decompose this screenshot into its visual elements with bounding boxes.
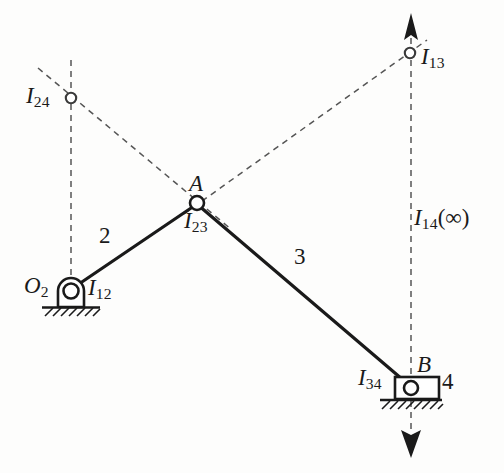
joint-A-pin xyxy=(190,196,204,210)
label-link-4: 4 xyxy=(442,370,454,393)
instant-center-I24-marker xyxy=(66,93,76,103)
label-I14-subscript: 14 xyxy=(422,215,438,232)
label-link-3: 3 xyxy=(294,245,306,268)
label-link-2: 2 xyxy=(99,224,111,247)
label-O2: O2 xyxy=(24,274,49,300)
joint-O2-pin xyxy=(64,284,79,299)
label-I12-letter: I xyxy=(88,275,96,300)
label-O2-subscript: 2 xyxy=(41,283,49,300)
label-B-letter: B xyxy=(417,352,431,377)
label-I13: I13 xyxy=(421,45,445,71)
label-I34-letter: I xyxy=(358,365,366,390)
links-group xyxy=(73,204,409,385)
label-I24-subscript: 24 xyxy=(34,93,50,110)
instant-center-markers-group xyxy=(66,48,415,103)
label-I34: I34 xyxy=(358,366,382,392)
label-I24: I24 xyxy=(26,84,50,110)
label-I23-subscript: 23 xyxy=(192,218,208,235)
label-I14-letter: I xyxy=(414,205,422,230)
link-3-bar xyxy=(198,205,409,385)
arrow-up-I13-icon xyxy=(404,13,418,40)
instant-center-I13-marker xyxy=(405,48,415,58)
ground-hatching-O2 xyxy=(45,308,100,316)
label-I13-letter: I xyxy=(421,44,429,69)
figure-canvas: I24 I13 I12 I23 I34 I14(∞) O2 A B 2 3 4 xyxy=(0,0,504,473)
label-I14-infinity-paren: (∞) xyxy=(438,205,470,230)
slider-block-4-group xyxy=(380,377,443,409)
joint-B-pin xyxy=(404,381,418,395)
arrow-down-B-icon xyxy=(401,430,421,458)
label-I24-letter: I xyxy=(26,83,34,108)
label-O2-letter: O xyxy=(24,273,41,298)
label-I12: I12 xyxy=(88,276,112,302)
diagonal-A-to-I13-line xyxy=(184,40,427,214)
label-B: B xyxy=(417,353,431,376)
label-I23-letter: I xyxy=(184,208,192,233)
label-A: A xyxy=(189,172,203,195)
label-I34-subscript: 34 xyxy=(366,375,382,392)
ground-hatching-slider xyxy=(382,401,443,409)
label-I12-subscript: 12 xyxy=(96,285,112,302)
label-I14-infinity: I14(∞) xyxy=(414,206,469,232)
label-A-letter: A xyxy=(189,171,203,196)
label-I23: I23 xyxy=(184,209,208,235)
label-I13-subscript: 13 xyxy=(429,54,445,71)
